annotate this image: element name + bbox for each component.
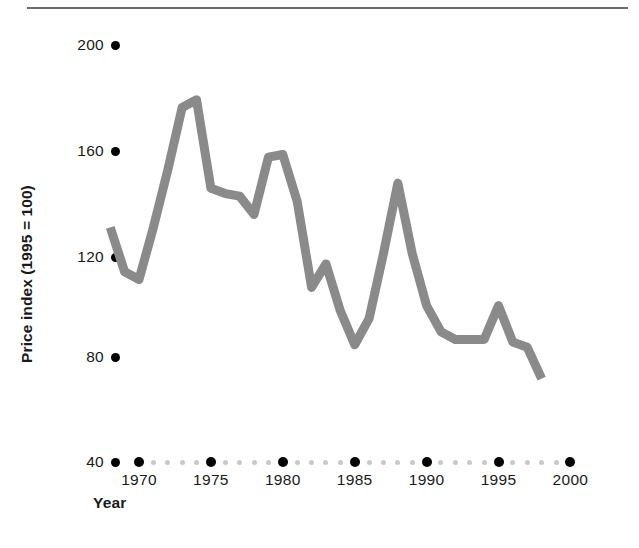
plot-area [0, 0, 639, 548]
price-index-line [110, 100, 541, 379]
chart-figure: Price index (1995 = 100) 200 160 120 80 … [0, 0, 639, 548]
